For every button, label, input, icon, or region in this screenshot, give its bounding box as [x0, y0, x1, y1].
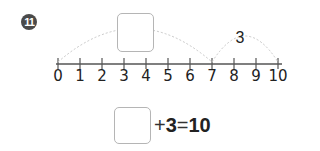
result: 10 — [189, 114, 211, 136]
jump-label: 3 — [236, 29, 245, 47]
tick-label-9: 9 — [251, 67, 261, 85]
tick-label-3: 3 — [119, 67, 129, 85]
jump-arc-7-to-10 — [212, 36, 278, 62]
tick-label-5: 5 — [163, 67, 173, 85]
tick-label-4: 4 — [141, 67, 151, 85]
equals-sign: = — [177, 114, 189, 136]
plus-sign: + — [154, 114, 166, 136]
tick-label-0: 0 — [53, 67, 63, 85]
addend: 3 — [166, 114, 177, 136]
jump-answer-box[interactable] — [117, 13, 154, 52]
tick-label-1: 1 — [75, 67, 85, 85]
equation: +3=10 — [154, 114, 211, 137]
tick-label-6: 6 — [185, 67, 195, 85]
tick-label-8: 8 — [229, 67, 239, 85]
tick-label-7: 7 — [207, 67, 217, 85]
tick-label-2: 2 — [97, 67, 107, 85]
equation-answer-box[interactable] — [114, 107, 151, 144]
tick-label-10: 10 — [268, 67, 287, 85]
